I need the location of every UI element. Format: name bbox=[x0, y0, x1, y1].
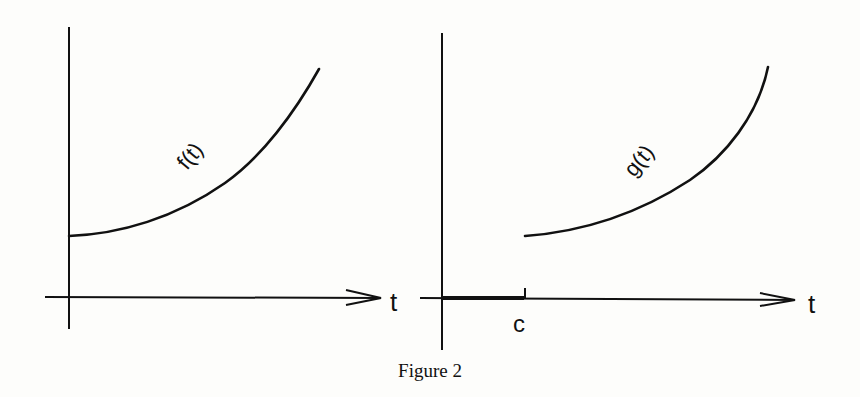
left-t-axis-label: t bbox=[390, 287, 398, 317]
right-t-axis-label: t bbox=[808, 289, 816, 319]
f-curve-label: f(t) bbox=[172, 138, 208, 175]
g-curve-label: g(t) bbox=[619, 140, 659, 181]
left-t-axis bbox=[45, 297, 381, 298]
figure-2-diagram: t f(t) c t g(t) bbox=[0, 0, 860, 397]
c-shift-label: c bbox=[513, 310, 525, 337]
figure-caption: Figure 2 bbox=[0, 360, 860, 382]
left-panel: t f(t) bbox=[45, 27, 398, 329]
right-panel: c t g(t) bbox=[420, 33, 816, 350]
